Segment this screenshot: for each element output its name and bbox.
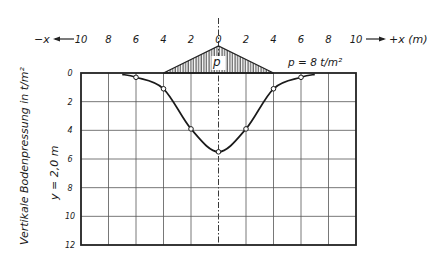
x-axis-minus-label: −x	[34, 33, 50, 46]
load-p-label: p	[212, 55, 221, 69]
x-tick-label: 4	[270, 34, 276, 45]
x-axis-plus-label: +x (m)	[389, 33, 428, 46]
data-point-marker	[244, 127, 249, 132]
y-depth-label: y = 2,0 m	[48, 146, 61, 201]
x-tick-label: 8	[105, 34, 111, 45]
pressure-diagram: 1086420246810 024681012 −x +x (m) p p = …	[0, 0, 443, 266]
y-tick-label: 6	[67, 155, 72, 164]
x-tick-label: 8	[325, 34, 331, 45]
y-axis-title: Vertikale Bodenpressung in t/m²	[18, 67, 31, 245]
data-point-marker	[216, 150, 221, 155]
x-tick-label: 6	[298, 34, 304, 45]
y-tick-label: 0	[67, 69, 72, 78]
y-axis-ticks: 024681012	[65, 69, 75, 250]
data-point-marker	[271, 86, 276, 91]
y-tick-label: 12	[65, 241, 75, 250]
x-tick-label: 2	[243, 34, 249, 45]
x-tick-label: 10	[350, 34, 363, 45]
load-value-label: p = 8 t/m²	[287, 56, 343, 68]
data-point-marker	[189, 127, 194, 132]
x-axis-ticks: 1086420246810	[75, 34, 363, 45]
data-point-marker	[134, 75, 139, 80]
x-tick-label: 2	[188, 34, 194, 45]
data-point-marker	[299, 75, 304, 80]
arrow-left-head-icon	[53, 37, 60, 42]
arrow-right-head-icon	[379, 37, 386, 42]
x-tick-label: 10	[75, 34, 88, 45]
y-tick-label: 2	[67, 98, 72, 107]
x-tick-label: 4	[160, 34, 166, 45]
data-point-marker	[161, 86, 166, 91]
x-tick-label: 6	[133, 34, 139, 45]
y-tick-label: 4	[67, 126, 72, 135]
y-tick-label: 10	[65, 212, 75, 221]
x-tick-label: 0	[215, 34, 221, 45]
y-tick-label: 8	[67, 184, 72, 193]
